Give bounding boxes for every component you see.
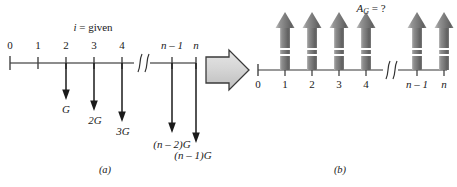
panel-a-flow-label-G: G (56, 104, 76, 115)
panel-b-caption: (b) (320, 165, 360, 176)
panel-b-tick-label-3: 3 (329, 79, 349, 90)
panel-a-tick-label-n: n (186, 40, 206, 51)
panel-b-arrow-n-minus-1 (408, 12, 427, 70)
block-right-arrow-icon (206, 50, 249, 90)
panel-b-arrow-n (435, 12, 454, 70)
panel-b-cashflow-arrows (276, 12, 454, 70)
panel-b-arrow-4 (357, 12, 376, 70)
panel-b-axis-break-icon (386, 61, 397, 79)
panel-a-header-label: i = given (58, 22, 128, 33)
panel-b-arrow-2 (303, 12, 322, 70)
panel-b-tick-label-0: 0 (248, 79, 268, 90)
panel-a-tick-label-4: 4 (112, 40, 132, 51)
panel-a-tick-label-n-minus-1: n – 1 (154, 40, 190, 51)
panel-a-flow-label-2G: 2G (82, 115, 108, 126)
panel-b-tick-label-n-minus-1: n – 1 (399, 79, 435, 90)
panel-b-arrow-3 (330, 12, 349, 70)
panel-a-arrow-n-minus-2-G (168, 63, 176, 133)
panel-a-flow-label-n-minus-1-G: (n – 1)G (162, 150, 224, 161)
panel-b-arrow-1 (276, 12, 295, 70)
panel-a-caption: (a) (85, 165, 125, 176)
panel-a-arrow-n-minus-1-G (192, 63, 200, 143)
panel-a-arrow-G (62, 63, 70, 100)
panel-a-tick-label-3: 3 (84, 40, 104, 51)
panel-b-tick-label-n: n (434, 79, 454, 90)
panel-a-tick-label-0: 0 (0, 40, 20, 51)
panel-a-axis-break-icon (138, 54, 149, 72)
panel-a-tick-label-1: 1 (28, 40, 48, 51)
panel-a-arrow-3G (118, 63, 126, 122)
panel-a-axis-group (10, 54, 196, 72)
panel-b-tick-label-1: 1 (275, 79, 295, 90)
panel-b-header-tail: = ? (369, 2, 386, 14)
gradient-cash-flow-figure: i = given 0 1 2 3 4 n – 1 n G 2G 3G (n –… (0, 0, 457, 187)
panel-a-tick-label-2: 2 (56, 40, 76, 51)
panel-b-tick-label-4: 4 (356, 79, 376, 90)
panel-b-tick-label-2: 2 (302, 79, 322, 90)
panel-a-arrow-2G (90, 63, 98, 111)
panel-a-flow-label-3G: 3G (110, 126, 136, 137)
panel-b-header-label: AG = ? (345, 3, 397, 16)
